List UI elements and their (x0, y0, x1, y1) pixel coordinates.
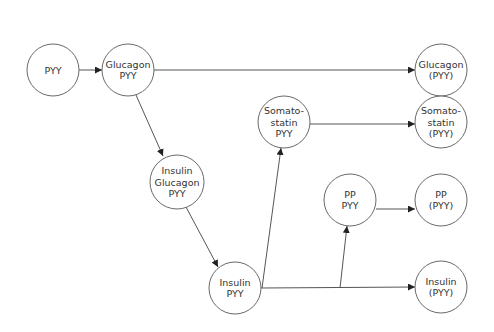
node-glucagon-pyy: GlucagonPYY (102, 44, 154, 96)
node-pp-pyy-out: PP(PYY) (415, 174, 467, 226)
node-label: (PYY) (429, 200, 454, 211)
edge-insulin_pyy-to-somatostatin_pyy (262, 148, 281, 288)
node-label: PYY (44, 65, 61, 76)
edge-insulin_pyy-to-pp_pyy (340, 226, 347, 288)
edge-glucagon_pyy-to-insulin_glucagon_pyy (136, 95, 163, 156)
node-label: PYY (275, 128, 292, 139)
node-pyy: PYY (27, 44, 79, 96)
node-glucagon-pyy-out: Glucagon(PYY) (415, 44, 467, 96)
node-label: PYY (226, 288, 243, 299)
node-label: (PYY) (429, 128, 454, 139)
node-pp-pyy: PPPYY (324, 174, 376, 226)
nodes-layer: PYYGlucagonPYYGlucagon(PYY)InsulinGlucag… (27, 44, 467, 314)
node-label: PP (344, 189, 356, 200)
node-label: Insulin (161, 165, 192, 176)
node-label: (PYY) (429, 287, 454, 298)
node-insulin-pyy-out: Insulin(PYY) (415, 261, 467, 313)
node-label: Insulin (425, 276, 456, 287)
node-somatostatin-pyy-out: Somato-statin(PYY) (415, 96, 467, 148)
edge-insulin_pyy-to-insulin_pyy_out (261, 287, 415, 288)
node-label: PYY (168, 188, 185, 199)
node-label: Somato- (421, 105, 461, 116)
node-label: Glucagon (419, 59, 464, 70)
diagram-canvas: PYYGlucagonPYYGlucagon(PYY)InsulinGlucag… (0, 0, 494, 332)
node-label: Somato- (264, 105, 304, 116)
node-label: PYY (341, 200, 358, 211)
node-label: PYY (119, 70, 136, 81)
edge-insulin_glucagon_pyy-to-insulin_pyy (186, 207, 218, 267)
node-insulin-pyy: InsulinPYY (209, 262, 261, 314)
node-label: (PYY) (429, 70, 454, 81)
node-label: statin (428, 117, 455, 128)
node-label: PP (435, 189, 447, 200)
node-label: Glucagon (155, 177, 200, 188)
node-label: statin (271, 117, 298, 128)
node-somatostatin-pyy: Somato-statinPYY (258, 96, 310, 148)
node-insulin-glucagon-pyy: InsulinGlucagonPYY (150, 155, 204, 209)
node-label: Insulin (219, 277, 250, 288)
node-label: Glucagon (106, 59, 151, 70)
